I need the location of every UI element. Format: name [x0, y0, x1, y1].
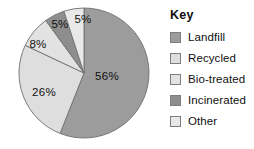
legend-label-other: Other: [188, 115, 217, 128]
pie-slices-group: [19, 8, 149, 138]
pie-chart-svg: 56%26%8%5%5%: [0, 0, 165, 149]
legend-swatch-bio-treated: [170, 74, 181, 85]
legend-item-landfill[interactable]: Landfill: [170, 27, 254, 48]
legend-item-other[interactable]: Other: [170, 111, 254, 132]
legend-item-incinerated[interactable]: Incinerated: [170, 90, 254, 111]
pie-slice-label-incinerated: 5%: [51, 18, 68, 30]
legend-swatch-incinerated: [170, 95, 181, 106]
pie-chart-figure: 56%26%8%5%5% Key Landfill Recycled Bio-t…: [0, 0, 254, 149]
legend-item-bio-treated[interactable]: Bio-treated: [170, 69, 254, 90]
pie-slice-label-landfill: 56%: [95, 70, 119, 82]
legend-item-recycled[interactable]: Recycled: [170, 48, 254, 69]
pie-slice-label-recycled: 26%: [32, 86, 56, 98]
legend-label-landfill: Landfill: [188, 31, 225, 44]
legend-swatch-recycled: [170, 53, 181, 64]
pie-slice-label-bio-treated: 8%: [29, 38, 46, 50]
legend-label-incinerated: Incinerated: [188, 94, 246, 107]
pie-slice-label-other: 5%: [74, 13, 91, 25]
legend-label-bio-treated: Bio-treated: [188, 73, 245, 86]
legend-title: Key: [170, 8, 254, 22]
legend-swatch-other: [170, 116, 181, 127]
legend-swatch-landfill: [170, 32, 181, 43]
pie-chart-area: 56%26%8%5%5%: [0, 0, 165, 149]
chart-legend: Key Landfill Recycled Bio-treated Incine…: [170, 8, 254, 132]
legend-label-recycled: Recycled: [188, 52, 236, 65]
